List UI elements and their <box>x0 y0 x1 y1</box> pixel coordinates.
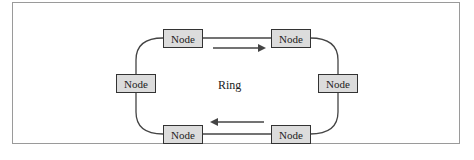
node-left: Node <box>116 74 156 93</box>
node-bottom-left: Node <box>163 125 203 144</box>
arrow-right-icon <box>213 44 266 52</box>
node-top-left: Node <box>163 29 203 48</box>
node-top-right: Node <box>271 29 311 48</box>
node-right: Node <box>318 74 358 93</box>
node-bottom-right: Node <box>271 125 311 144</box>
arrow-left-icon <box>210 118 264 126</box>
ring-label: Ring <box>218 78 241 93</box>
